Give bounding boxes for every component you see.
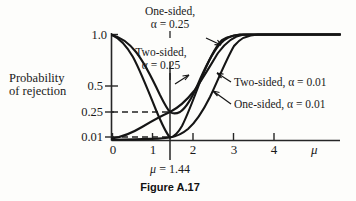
annotation-one-sided-025-line2: α = 0.25 xyxy=(122,18,218,31)
ytick-label-0.25: 0.25 xyxy=(66,105,103,119)
xtick-label-0: 0 xyxy=(103,143,123,158)
ytick-label-0.01: 0.01 xyxy=(66,130,103,144)
xtick-label-1: 1 xyxy=(143,143,163,158)
mu-value-note: μ = 1.44 xyxy=(131,163,209,176)
xtick-label-2: 2 xyxy=(183,143,203,158)
annotation-one-sided-025-line1: One-sided, xyxy=(122,5,218,18)
x-axis-label: μ xyxy=(311,143,318,158)
annotation-two-sided-025-line2: α = 0.25 xyxy=(113,59,209,72)
y-axis-label-line2: of rejection xyxy=(9,84,66,98)
figure-container: 1.0 0.5 0.25 0.01 0 1 2 3 4 μ Probabilit… xyxy=(0,0,356,201)
ytick-label-0.5: 0.5 xyxy=(77,79,103,93)
leader-one-sided-001-arrow xyxy=(213,91,231,104)
annotation-two-sided-001: Two-sided, α = 0.01 xyxy=(234,76,327,89)
ytick-label-1.0: 1.0 xyxy=(77,28,107,42)
annotation-one-sided-001: One-sided, α = 0.01 xyxy=(234,98,325,111)
mu-symbol: μ xyxy=(150,162,156,176)
xtick-label-4: 4 xyxy=(264,143,284,158)
annotation-two-sided-025-line1: Two-sided, xyxy=(113,46,209,59)
figure-caption: Figure A.17 xyxy=(120,181,220,193)
mu-value: = 1.44 xyxy=(159,162,190,176)
leader-two-sided-025-arrow xyxy=(175,75,189,84)
xtick-label-3: 3 xyxy=(224,143,244,158)
